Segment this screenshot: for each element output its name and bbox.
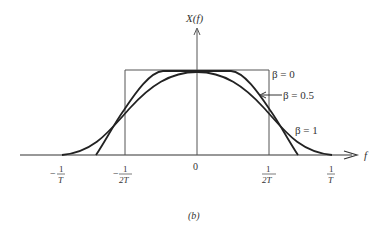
svg-text:2T: 2T <box>262 175 273 185</box>
svg-text:1: 1 <box>329 164 334 174</box>
tick-zero: 0 <box>193 161 198 172</box>
x-axis-label: f <box>364 149 369 161</box>
svg-text:T: T <box>58 175 64 185</box>
raised-cosine-spectrum-diagram: β = 0 β = 0.5 β = 1 X(f) f − 1 T − 1 2T … <box>0 0 391 229</box>
label-beta-1: β = 1 <box>295 124 318 136</box>
tick-neg-1-T: − 1 T <box>50 164 65 185</box>
tick-neg-1-2T: − 1 2T <box>113 164 132 185</box>
tick-pos-1-T: 1 T <box>327 164 335 185</box>
svg-text:T: T <box>328 175 334 185</box>
svg-text:1: 1 <box>59 164 64 174</box>
label-beta-0.5: β = 0.5 <box>283 89 315 101</box>
label-beta-0: β = 0 <box>272 68 295 80</box>
svg-text:1: 1 <box>266 164 271 174</box>
tick-pos-1-2T: 1 2T <box>262 164 276 185</box>
svg-text:−: − <box>50 168 56 179</box>
svg-text:2T: 2T <box>119 175 130 185</box>
figure-caption: (b) <box>188 210 200 222</box>
y-axis-label: X(f) <box>185 12 203 25</box>
svg-text:1: 1 <box>123 164 128 174</box>
